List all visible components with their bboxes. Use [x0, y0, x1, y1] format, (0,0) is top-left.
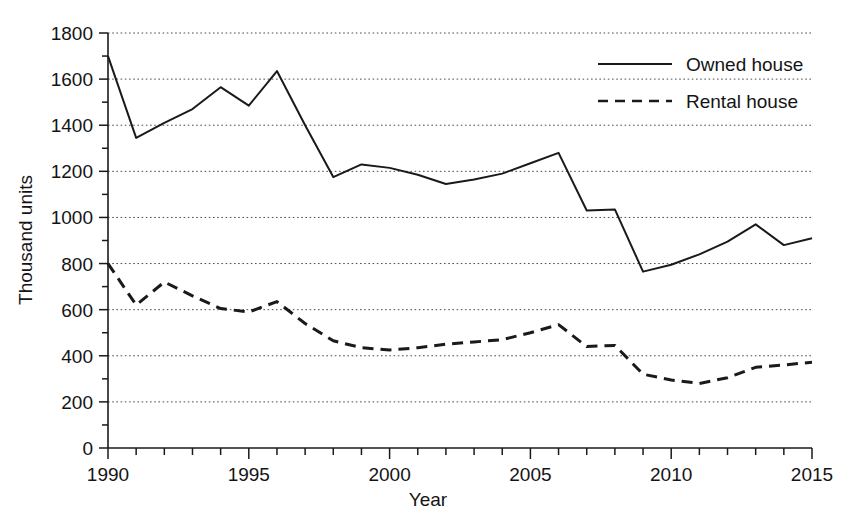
- line-chart: 199019952000200520102015 020040060080010…: [0, 0, 844, 527]
- x-tick-label-1990: 1990: [87, 464, 129, 485]
- x-tick-label-2000: 2000: [368, 464, 410, 485]
- y-tick-label-1600: 1600: [51, 69, 93, 90]
- y-tick-label-400: 400: [61, 346, 93, 367]
- series-line-rental-house: [108, 264, 812, 384]
- chart-legend: Owned house Rental house: [598, 54, 803, 112]
- y-tick-label-1000: 1000: [51, 207, 93, 228]
- y-tick-label-1800: 1800: [51, 23, 93, 44]
- y-axis-title: Thousand units: [15, 175, 36, 305]
- x-axis-tick-labels: 199019952000200520102015: [87, 464, 833, 485]
- x-tick-label-2015: 2015: [791, 464, 833, 485]
- legend-label-rental-house: Rental house: [686, 91, 798, 112]
- y-tick-label-1400: 1400: [51, 115, 93, 136]
- x-tick-label-2005: 2005: [509, 464, 551, 485]
- chart-figure: 199019952000200520102015 020040060080010…: [0, 0, 844, 527]
- series-line-owned-house: [108, 56, 812, 272]
- x-axis-ticks: [108, 448, 812, 459]
- y-tick-label-800: 800: [61, 254, 93, 275]
- y-tick-label-200: 200: [61, 392, 93, 413]
- y-axis-ticks: [99, 33, 108, 448]
- gridlines: [108, 33, 812, 402]
- y-tick-label-600: 600: [61, 300, 93, 321]
- y-tick-label-1200: 1200: [51, 161, 93, 182]
- y-tick-label-0: 0: [82, 438, 93, 459]
- x-tick-label-1995: 1995: [228, 464, 270, 485]
- y-axis-tick-labels: 020040060080010001200140016001800: [51, 23, 93, 459]
- x-tick-label-2010: 2010: [650, 464, 692, 485]
- x-axis-title: Year: [409, 489, 448, 510]
- legend-label-owned-house: Owned house: [686, 54, 803, 75]
